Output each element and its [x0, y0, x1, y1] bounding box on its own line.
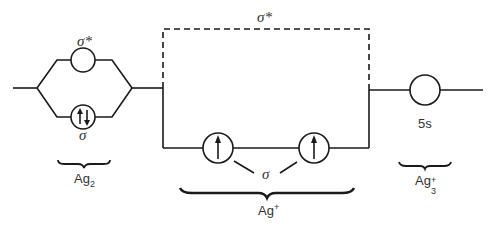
ag2-upper-branch-left: [37, 60, 71, 88]
ag3-5s-label: 5s: [418, 117, 432, 130]
ag2-sigma-electron-up-icon: [77, 108, 83, 124]
ag2-brace: [58, 160, 110, 168]
sigma-pointer-right: [280, 162, 297, 173]
ag2-species-label: Ag2: [74, 172, 95, 189]
ag2-sigma-star-orbital: [71, 48, 95, 72]
ag2-lower-branch-right: [95, 88, 132, 117]
ag3-brace: [399, 162, 451, 169]
agplus-right-electron-up-icon: [311, 135, 317, 159]
ag2-lower-branch-left: [37, 88, 71, 117]
ag2-sigma-orbital: [71, 105, 95, 129]
agplus-left-electron-up-icon: [215, 135, 221, 159]
ag3-5s-orbital: [410, 75, 440, 105]
ag2-sigma-label: σ: [79, 128, 86, 143]
sigma-pointer-left: [234, 161, 254, 173]
agplus-sigma-star-dashed: [163, 29, 369, 90]
ag2-sigma-electron-down-icon: [84, 110, 90, 126]
ag2-upper-branch-right: [95, 60, 132, 88]
agplus-species-label: Ag+: [258, 203, 279, 217]
agplus-sigma-label: σ: [262, 167, 269, 182]
agplus-brace: [180, 188, 354, 198]
agplus-sigma-star-label: σ*: [257, 10, 272, 25]
ag3-species-label: Ag+3: [415, 174, 439, 187]
ag2-sigma-star-label: σ*: [77, 34, 92, 49]
